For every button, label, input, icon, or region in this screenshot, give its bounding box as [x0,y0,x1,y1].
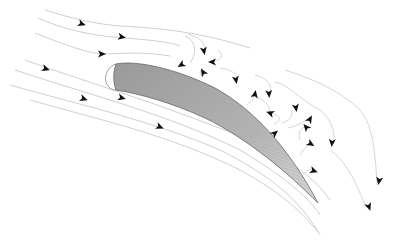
flow-arrow-icon [364,202,373,212]
separation-eddy [285,70,377,185]
flow-arrow-icon [309,166,319,175]
separation-eddy [275,82,334,142]
flow-arrow-icon [176,60,186,70]
flow-arrow-icon [328,139,336,148]
flow-arrow-icon [200,46,208,55]
flow-arrow-icon [79,94,89,103]
flow-arrow-icon [305,114,315,124]
airfoil [105,63,318,203]
flow-arrow-icon [292,103,300,112]
flow-arrow-icon [117,94,127,103]
upper-streamline [185,36,195,63]
separation-eddy [255,75,270,92]
flow-arrow-icon [265,90,273,99]
separation-eddy [282,110,292,123]
flow-arrow-icon [301,122,312,133]
lower-streamline [30,100,318,232]
separation-eddy [299,127,305,140]
flow-arrow-icon [155,122,165,131]
flow-arrow-icon [375,176,383,185]
flow-arrow-icon [208,59,216,66]
flow-arrow-icon [117,33,126,41]
upper-streamline [45,10,250,48]
airfoil-flow-diagram [0,0,398,244]
separation-eddy [330,150,365,205]
separation-eddy [188,34,205,50]
flow-arrow-icon [306,139,316,149]
flow-arrow-icon [232,75,240,84]
separation-eddy [250,95,270,112]
